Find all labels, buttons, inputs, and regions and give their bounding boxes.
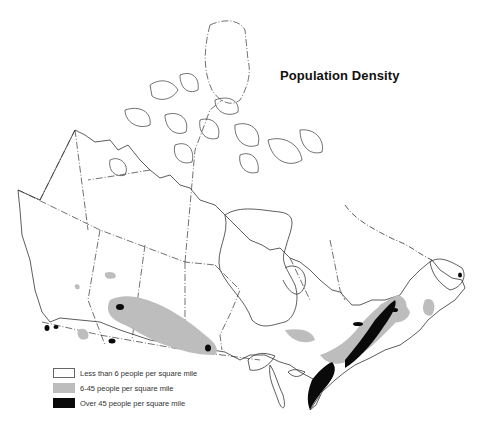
arctic-islands	[110, 21, 323, 176]
legend-item-low: Less than 6 people per square mile	[53, 366, 197, 380]
legend-swatch-low	[53, 368, 75, 378]
legend-item-medium: 6-45 people per square mile	[53, 381, 197, 395]
legend-swatch-medium	[53, 383, 75, 393]
legend-swatch-high	[53, 398, 75, 408]
map-title: Population Density	[280, 68, 400, 83]
legend-label-medium: 6-45 people per square mile	[80, 384, 173, 393]
legend-label-low: Less than 6 people per square mile	[80, 369, 197, 378]
legend: Less than 6 people per square mile 6-45 …	[53, 366, 197, 411]
legend-item-high: Over 45 people per square mile	[53, 396, 197, 410]
legend-label-high: Over 45 people per square mile	[80, 399, 185, 408]
